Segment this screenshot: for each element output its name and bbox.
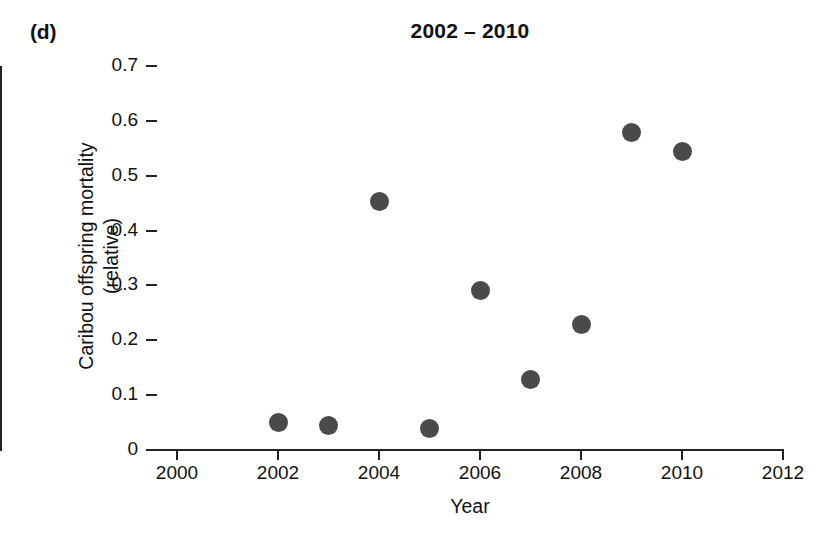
x-tick-mark xyxy=(580,450,582,460)
plot-area xyxy=(157,66,783,450)
y-tick-mark xyxy=(146,120,157,122)
data-point xyxy=(622,123,641,142)
y-tick-mark xyxy=(146,284,157,286)
x-tick-label: 2012 xyxy=(762,462,804,484)
data-point xyxy=(269,413,288,432)
y-axis-title: Caribou offspring mortality (relative) xyxy=(74,91,124,421)
data-point xyxy=(521,370,540,389)
x-tick-label: 2004 xyxy=(358,462,400,484)
y-tick-label-text: 0.7 xyxy=(112,54,138,76)
x-tick-mark xyxy=(782,450,784,460)
data-point xyxy=(420,419,439,438)
y-axis-title-line-1: Caribou offspring mortality xyxy=(75,142,97,369)
x-tick-label: 2006 xyxy=(459,462,501,484)
x-tick-label: 2002 xyxy=(257,462,299,484)
y-tick-mark xyxy=(146,339,157,341)
x-tick-mark xyxy=(277,450,279,460)
data-point xyxy=(319,416,338,435)
x-axis-title: Year xyxy=(157,495,783,518)
data-point xyxy=(471,281,490,300)
x-tick-mark xyxy=(378,450,380,460)
x-tick-label: 2008 xyxy=(560,462,602,484)
scatter-plot-figure: (d) 2002 – 2010 Caribou offspring mortal… xyxy=(0,0,836,540)
chart-title: 2002 – 2010 xyxy=(157,19,783,43)
y-tick-label-text: 0.5 xyxy=(112,164,138,186)
y-tick-label-text: 0 xyxy=(127,438,138,460)
x-tick-mark xyxy=(479,450,481,460)
x-tick-mark xyxy=(681,450,683,460)
x-tick-label: 2010 xyxy=(661,462,703,484)
y-tick-label-text: 0.6 xyxy=(112,109,138,131)
y-tick-label-text: 0.3 xyxy=(112,273,138,295)
y-tick-mark xyxy=(146,230,157,232)
y-tick-mark xyxy=(146,394,157,396)
panel-label: (d) xyxy=(30,20,56,44)
x-tick-label: 2000 xyxy=(156,462,198,484)
y-tick-mark xyxy=(146,449,157,451)
y-tick-label-text: 0.1 xyxy=(112,383,138,405)
x-tick-mark xyxy=(176,450,178,460)
y-tick-mark xyxy=(146,175,157,177)
y-tick-label-text: 0.4 xyxy=(112,219,138,241)
y-tick-mark xyxy=(146,65,157,67)
data-point xyxy=(673,142,692,161)
data-point xyxy=(572,315,591,334)
y-axis-title-line-2: (relative) xyxy=(99,91,124,421)
data-point xyxy=(370,192,389,211)
y-axis-line xyxy=(0,66,2,451)
y-tick-label-text: 0.2 xyxy=(112,328,138,350)
